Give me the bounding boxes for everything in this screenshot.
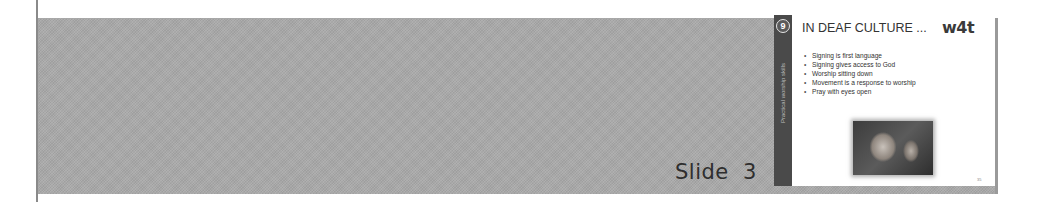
bullet-item: Signing is first language bbox=[804, 51, 916, 60]
bullet-item: Movement is a response to worship bbox=[804, 78, 916, 87]
w4t-logo-icon: w4t bbox=[942, 18, 974, 37]
bullet-list: Signing is first language Signing gives … bbox=[804, 51, 916, 96]
slide-number-label: Slide 3 bbox=[675, 160, 757, 184]
bullet-item: Worship sitting down bbox=[804, 69, 916, 78]
section-number-badge: 9 bbox=[776, 19, 790, 33]
signing-person-photo bbox=[853, 121, 933, 175]
bullet-item: Pray with eyes open bbox=[804, 87, 916, 96]
slide-page-number: 35 bbox=[977, 177, 981, 182]
bullet-item: Signing gives access to God bbox=[804, 60, 916, 69]
side-vertical-text: Practical worship skills bbox=[777, 33, 789, 123]
slide-side-strip: 9 Practical worship skills bbox=[774, 15, 792, 186]
slide-title: IN DEAF CULTURE ... bbox=[802, 21, 927, 35]
slide-thumbnail[interactable]: 9 Practical worship skills IN DEAF CULTU… bbox=[774, 15, 995, 186]
thumbnail-right-border bbox=[995, 18, 998, 194]
